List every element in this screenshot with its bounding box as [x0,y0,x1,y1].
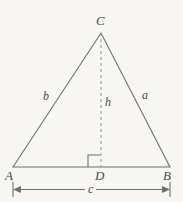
vertex-label-d: D [95,169,104,182]
vertex-label-b: B [163,169,171,182]
side-label-h: h [105,96,111,108]
vertex-label-a: A [5,169,13,182]
side-label-b: b [43,90,49,102]
arrowhead-right-icon [162,186,170,193]
vertex-label-c: C [96,14,105,27]
dimension-label-c: c [85,183,96,195]
triangle-svg [0,0,183,202]
geometry-figure: A D B C b h a c [0,0,183,202]
arrowhead-left-icon [13,186,21,193]
side-label-a: a [142,89,148,101]
right-angle-marker [88,155,100,167]
